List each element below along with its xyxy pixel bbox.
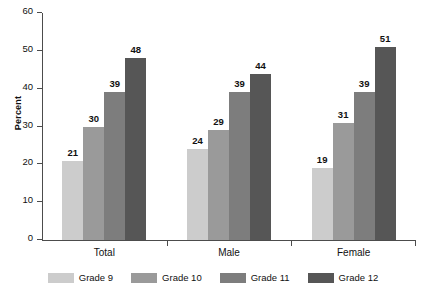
y-tick-50: 50 [37, 50, 42, 51]
y-tick-label: 40 [22, 81, 33, 92]
bar-value-label: 39 [110, 78, 121, 89]
y-axis-line [42, 13, 43, 241]
y-tick-10: 10 [37, 201, 42, 202]
bar-group-female: 19313951Female [312, 13, 396, 240]
bar-chart: Percent 0102030405060 21303948Total24293… [0, 0, 426, 298]
y-tick-label: 10 [22, 194, 33, 205]
bar-total-grade-12[interactable]: 48 [125, 58, 146, 240]
bar-value-label: 29 [213, 116, 224, 127]
y-tick-60: 60 [37, 12, 42, 13]
y-tick-30: 30 [37, 126, 42, 127]
x-axis-label-total: Total [62, 247, 146, 258]
y-tick-40: 40 [37, 88, 42, 89]
x-axis-line [42, 240, 416, 241]
bar-male-grade-10[interactable]: 29 [208, 130, 229, 240]
bar-value-label: 19 [317, 154, 328, 165]
y-tick-label: 30 [22, 119, 33, 130]
legend-label: Grade 10 [162, 272, 202, 283]
bar-value-label: 31 [338, 109, 349, 120]
bar-male-grade-11[interactable]: 39 [229, 92, 250, 240]
y-tick-label: 0 [28, 232, 33, 243]
y-tick-label: 20 [22, 156, 33, 167]
bar-value-label: 39 [359, 78, 370, 89]
legend-swatch [131, 273, 157, 283]
bar-group-total: 21303948Total [62, 13, 146, 240]
y-tick-label: 60 [22, 5, 33, 16]
legend-label: Grade 9 [79, 272, 113, 283]
bar-value-label: 48 [131, 44, 142, 55]
x-tick-0 [167, 241, 168, 246]
bar-value-label: 51 [380, 33, 391, 44]
bar-male-grade-9[interactable]: 24 [187, 149, 208, 240]
legend-item-grade-12[interactable]: Grade 12 [308, 272, 379, 283]
legend-label: Grade 11 [251, 272, 290, 283]
bar-female-grade-11[interactable]: 39 [354, 92, 375, 240]
bar-female-grade-10[interactable]: 31 [333, 123, 354, 240]
bars: 19313951 [312, 13, 396, 240]
bar-value-label: 39 [234, 78, 245, 89]
x-tick-1 [291, 241, 292, 246]
bar-value-label: 24 [192, 135, 203, 146]
bar-female-grade-12[interactable]: 51 [375, 47, 396, 240]
x-axis-label-male: Male [187, 247, 271, 258]
plot-area: 0102030405060 21303948Total24293944Male1… [42, 13, 416, 241]
x-tick-2 [415, 241, 416, 246]
legend-swatch [308, 273, 334, 283]
legend-label: Grade 12 [339, 272, 379, 283]
bar-total-grade-10[interactable]: 30 [83, 127, 104, 241]
y-tick-20: 20 [37, 163, 42, 164]
bar-value-label: 44 [255, 60, 266, 71]
bar-female-grade-9[interactable]: 19 [312, 168, 333, 240]
bar-male-grade-12[interactable]: 44 [250, 74, 271, 240]
bar-total-grade-11[interactable]: 39 [104, 92, 125, 240]
bar-total-grade-9[interactable]: 21 [62, 161, 83, 240]
bars: 24293944 [187, 13, 271, 240]
bars: 21303948 [62, 13, 146, 240]
legend-item-grade-10[interactable]: Grade 10 [131, 272, 202, 283]
bar-value-label: 21 [68, 147, 79, 158]
x-axis-label-female: Female [312, 247, 396, 258]
legend-swatch [48, 273, 74, 283]
legend-item-grade-11[interactable]: Grade 11 [220, 272, 290, 283]
bar-group-male: 24293944Male [187, 13, 271, 240]
bar-value-label: 30 [89, 113, 100, 124]
legend-item-grade-9[interactable]: Grade 9 [48, 272, 113, 283]
y-tick-label: 50 [22, 43, 33, 54]
legend-swatch [220, 273, 246, 283]
y-tick-0: 0 [37, 239, 42, 240]
chart-legend: Grade 9Grade 10Grade 11Grade 12 [0, 272, 426, 283]
